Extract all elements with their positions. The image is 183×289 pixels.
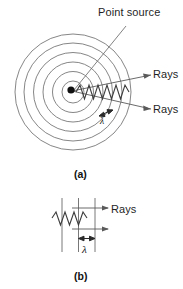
wavelength-marker-a-arrow-end (107, 110, 113, 114)
wavelength-marker-b-arrow-right (90, 236, 96, 241)
plane-rays-label: Rays (111, 203, 136, 215)
ray-arrowheads (143, 74, 151, 111)
point-source-leader-line (74, 26, 126, 90)
panel-a-graphic (0, 0, 183, 175)
wavelength-label-b: λ (82, 243, 87, 255)
plane-wave-squiggle (52, 212, 87, 225)
wavelength-label-a: λ (100, 116, 104, 126)
figure-container: Point source Rays Rays λ (a) Rays λ (b) (0, 0, 183, 289)
rays-upper-label: Rays (153, 68, 178, 80)
panel-b-graphic (0, 196, 183, 286)
wavelength-marker-b-arrow-left (79, 236, 85, 241)
point-source-label: Point source (98, 6, 160, 18)
ray-upper-arrowhead (143, 74, 151, 79)
plane-ray-lines (72, 208, 108, 229)
plane-ray-upper-arrowhead (102, 205, 109, 210)
panel-b-caption: (b) (74, 270, 87, 282)
ray-lower-arrowhead (143, 106, 151, 111)
point-source-dot (67, 86, 74, 93)
plane-ray-arrowheads (102, 205, 109, 231)
wavelength-marker-b (79, 236, 96, 241)
panel-a-caption: (a) (74, 168, 87, 180)
rays-lower-label: Rays (153, 103, 178, 115)
plane-ray-lower-arrowhead (102, 226, 109, 231)
